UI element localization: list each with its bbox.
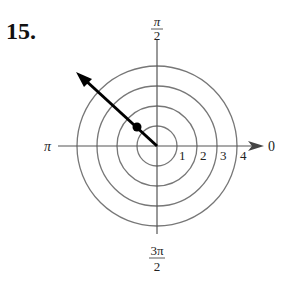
angle-label-pi-2-num: π [154, 14, 161, 29]
radius-label-3: 3 [220, 148, 227, 163]
ray-3pi-4 [84, 79, 157, 146]
polar-plot: 0 π π 2 3π 2 1 2 3 4 [0, 0, 291, 286]
angle-label-pi: π [44, 139, 52, 154]
radius-label-1: 1 [179, 148, 186, 163]
angle-label-0: 0 [268, 139, 275, 154]
angle-label-pi-2-den: 2 [154, 28, 161, 43]
angle-label-3pi-2-den: 2 [154, 259, 161, 274]
angle-label-3pi-2-num: 3π [150, 243, 164, 258]
polar-axes [58, 40, 254, 234]
radius-label-2: 2 [200, 148, 207, 163]
radius-label-4: 4 [240, 148, 247, 163]
point-marker [133, 123, 142, 132]
